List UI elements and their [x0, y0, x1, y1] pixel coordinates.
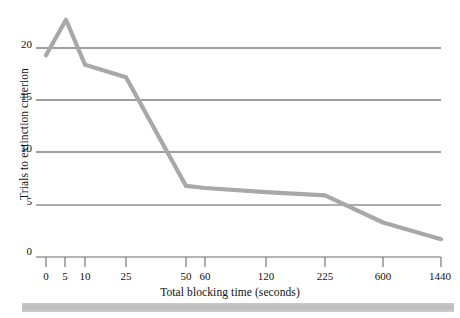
x-axis-ticks: [46, 257, 441, 267]
gridlines: [36, 48, 441, 205]
x-tick-label-225: 225: [308, 270, 342, 282]
x-tick-label-1440: 1440: [421, 270, 459, 282]
chart-figure: 20 15 10 5 0 0 5 10 25 50 60 120 225 600…: [0, 0, 460, 318]
x-tick-label-10: 10: [69, 270, 101, 282]
y-tick-label-0: 0: [6, 245, 32, 257]
data-series-line: [46, 20, 441, 239]
y-axis-title: Trials to extinction criterion: [18, 24, 30, 244]
x-tick-label-25: 25: [110, 270, 142, 282]
page-edge-bar: [22, 303, 454, 312]
x-axis-title: Total blocking time (seconds): [0, 286, 460, 298]
x-tick-label-60: 60: [189, 270, 221, 282]
x-tick-label-600: 600: [366, 270, 400, 282]
x-tick-label-120: 120: [249, 270, 283, 282]
